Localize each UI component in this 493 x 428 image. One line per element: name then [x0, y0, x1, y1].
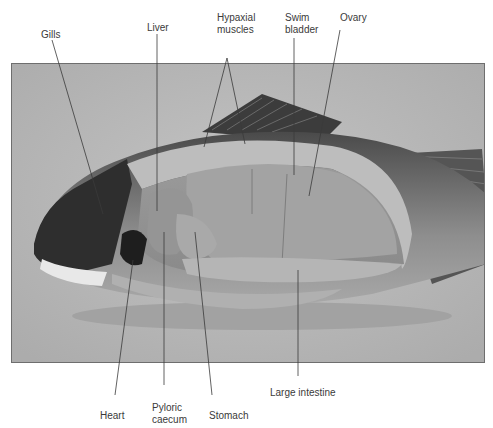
label-pyloric-caecum: Pyloric caecum: [152, 402, 187, 426]
label-large-intestine: Large intestine: [270, 387, 336, 399]
label-stomach: Stomach: [209, 410, 248, 422]
label-heart: Heart: [100, 410, 124, 422]
label-ovary: Ovary: [340, 12, 367, 24]
fish-illustration: [12, 64, 485, 363]
label-gills: Gills: [41, 29, 60, 41]
dissected-fish-photo: [11, 63, 485, 363]
label-swim-bladder: Swim bladder: [285, 12, 318, 36]
label-liver: Liver: [147, 22, 169, 34]
label-hypaxial-muscles: Hypaxial muscles: [217, 12, 255, 36]
